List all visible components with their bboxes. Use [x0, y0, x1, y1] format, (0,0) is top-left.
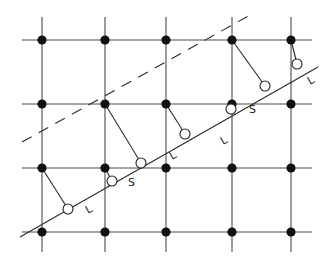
lattice-point	[286, 227, 295, 236]
lattice-point	[100, 35, 109, 44]
dashed-line	[22, 14, 252, 142]
node-link	[232, 40, 265, 86]
lattice-point	[37, 35, 46, 44]
open-node	[180, 129, 190, 139]
lattice-point	[227, 227, 236, 236]
lattice-point	[286, 35, 295, 44]
lattice-point	[161, 163, 170, 172]
lattice-point	[37, 99, 46, 108]
node-link	[105, 104, 141, 163]
lattice-point	[100, 163, 109, 172]
open-node	[136, 158, 146, 168]
segment-label: S	[249, 103, 256, 116]
open-node	[63, 204, 73, 214]
lattice-point	[161, 99, 170, 108]
open-node	[260, 81, 270, 91]
open-nodes	[63, 59, 302, 214]
lattice-point	[37, 163, 46, 172]
node-link	[42, 168, 68, 209]
segment-labels: LSLLSL	[83, 73, 318, 217]
segment-label: L	[167, 148, 180, 163]
lattice-point	[37, 227, 46, 236]
open-node	[292, 59, 302, 69]
segment-label: S	[128, 176, 135, 189]
lattice-point	[286, 99, 295, 108]
lattice-point	[100, 99, 109, 108]
lattice-point	[227, 163, 236, 172]
lattice-point	[161, 35, 170, 44]
grid-lines	[22, 17, 312, 252]
segment-label: L	[218, 133, 231, 148]
node-links	[42, 40, 297, 209]
lattice-point	[161, 227, 170, 236]
open-node	[226, 104, 236, 114]
lattice-diagram: LSLLSL	[0, 0, 335, 261]
lattice-point	[100, 227, 109, 236]
segment-label: L	[305, 73, 318, 88]
lattice-point	[286, 163, 295, 172]
lattice-point	[227, 35, 236, 44]
open-node	[107, 176, 117, 186]
segment-label: L	[83, 202, 96, 217]
